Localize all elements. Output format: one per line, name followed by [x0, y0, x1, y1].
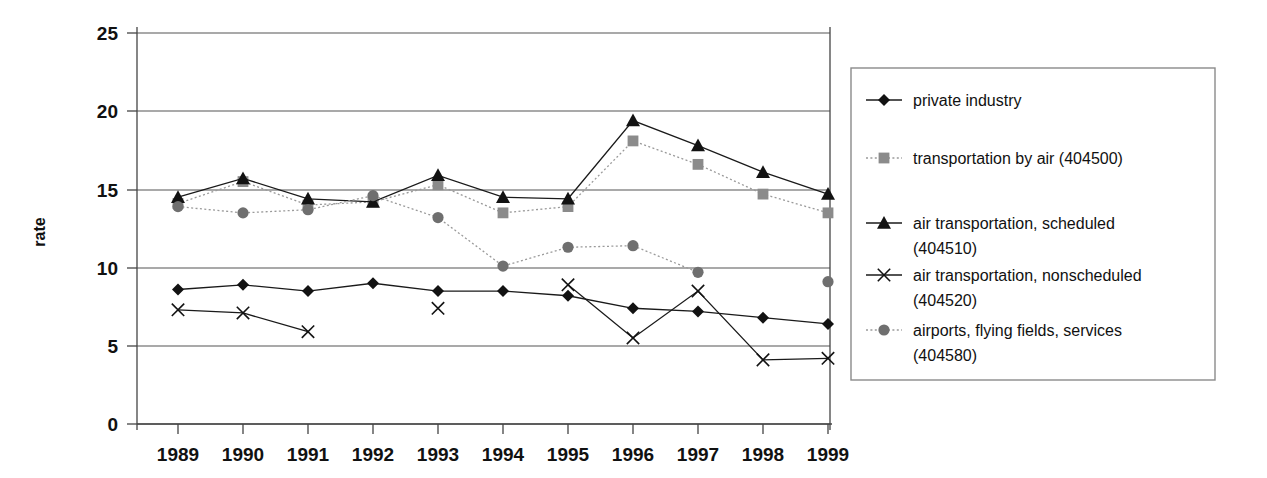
y-tick-label-10: 10: [97, 258, 118, 279]
data-point: [823, 207, 834, 218]
series-1: [172, 277, 834, 330]
y-axis-title: rate: [31, 217, 48, 246]
data-point: [822, 276, 833, 287]
data-point: [626, 114, 640, 127]
x-tick-label-1993: 1993: [417, 444, 459, 465]
data-point: [367, 190, 378, 201]
data-point: [498, 207, 509, 218]
series-layer: [171, 114, 835, 366]
legend-label: private industry: [913, 92, 1022, 109]
y-tick-label-20: 20: [97, 101, 118, 122]
data-point: [756, 165, 770, 178]
y-tick-label-0: 0: [107, 414, 118, 435]
x-tickmarks: [178, 424, 828, 434]
data-point: [432, 285, 444, 297]
x-tick-label-1991: 1991: [287, 444, 330, 465]
data-point: [237, 207, 248, 218]
data-point: [628, 136, 639, 147]
data-point: [562, 279, 574, 291]
x-tick-label-1989: 1989: [157, 444, 199, 465]
data-point: [822, 318, 834, 330]
data-point: [302, 204, 313, 215]
data-point: [431, 168, 445, 181]
data-point: [821, 187, 835, 200]
legend-label-line2: (404580): [913, 347, 977, 364]
data-point: [758, 189, 769, 200]
y-tickmarks: [127, 33, 137, 424]
data-point: [367, 277, 379, 289]
x-tick-label-1990: 1990: [222, 444, 264, 465]
data-point: [627, 240, 638, 251]
x-tick-label-1997: 1997: [677, 444, 719, 465]
data-point: [302, 326, 314, 338]
data-point: [562, 242, 573, 253]
x-tick-label-1994: 1994: [482, 444, 525, 465]
data-point: [757, 312, 769, 324]
x-tick-label-1995: 1995: [547, 444, 590, 465]
data-point: [692, 285, 704, 297]
x-tick-label-1998: 1998: [742, 444, 784, 465]
series-3: [171, 114, 835, 208]
gridlines: [137, 33, 830, 424]
series-5: [172, 190, 833, 287]
data-point: [497, 260, 508, 271]
legend-circle-marker: [878, 324, 889, 335]
y-tick-label-5: 5: [107, 336, 118, 357]
data-point: [496, 190, 510, 203]
y-tick-label-25: 25: [97, 23, 119, 44]
data-point: [693, 159, 704, 170]
data-point: [562, 290, 574, 302]
data-point: [432, 302, 444, 314]
data-point: [691, 139, 705, 152]
legend-label: air transportation, scheduled: [913, 215, 1115, 232]
data-point: [627, 332, 639, 344]
legend-square-marker: [879, 153, 890, 164]
legend-label-line2: (404510): [913, 240, 977, 257]
x-tick-label-1996: 1996: [612, 444, 654, 465]
data-point: [172, 201, 183, 212]
line-chart-svg: 25 20 15 10 5 0 rate 1989 1990 1991 1992…: [0, 0, 1267, 478]
legend-label: airports, flying fields, services: [913, 322, 1122, 339]
data-point: [301, 192, 315, 205]
data-point: [237, 279, 249, 291]
series-line: [568, 285, 828, 360]
chart-figure: 25 20 15 10 5 0 rate 1989 1990 1991 1992…: [0, 0, 1267, 478]
data-point: [627, 302, 639, 314]
x-tick-label-1999: 1999: [807, 444, 849, 465]
data-point: [692, 267, 703, 278]
data-point: [497, 285, 509, 297]
legend-label-line2: (404520): [913, 292, 977, 309]
legend-label: transportation by air (404500): [913, 150, 1123, 167]
series-line: [178, 196, 698, 273]
data-point: [302, 285, 314, 297]
data-point: [432, 212, 443, 223]
y-tick-label-15: 15: [97, 180, 119, 201]
data-point: [172, 283, 184, 295]
x-tick-label-1992: 1992: [352, 444, 394, 465]
series-2: [173, 136, 834, 219]
legend-label: air transportation, nonscheduled: [913, 267, 1142, 284]
data-point: [692, 305, 704, 317]
